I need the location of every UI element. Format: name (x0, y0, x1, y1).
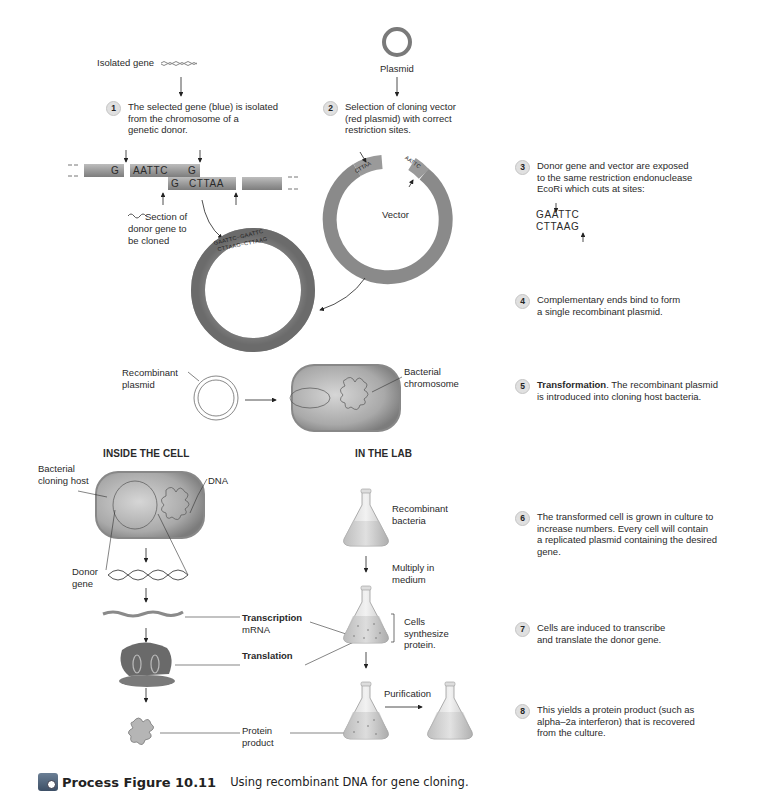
section-label: Section of (145, 211, 187, 223)
donor-gene-label: Donor gene (72, 566, 98, 589)
seq-mid-bottom: CTTAA (189, 178, 224, 190)
bacterial-chromosome-label: Bacterial chromosome (404, 366, 459, 389)
step-8: 8 This yields a protein product (such as… (515, 704, 695, 739)
step-6: 6 The transformed cell is grown in cultu… (515, 511, 717, 557)
cells-synthesize-label: Cells synthesize protein. (404, 616, 449, 651)
step-number: 8 (515, 704, 530, 719)
step-number: 5 (515, 379, 530, 394)
plasmid-icon (384, 29, 410, 55)
host-bacterium (292, 365, 400, 431)
vector-label: Vector (382, 209, 409, 221)
step-5: 5 Transformation. The recombinant plasmi… (515, 379, 718, 402)
purification-label: Purification (384, 688, 431, 700)
in-lab-header: IN THE LAB (355, 448, 412, 459)
isolated-gene-label: Isolated gene (97, 57, 154, 69)
donor-dna-strand (68, 150, 298, 205)
protein-product-icon (128, 718, 153, 745)
step-number: 7 (515, 622, 530, 637)
inside-cell-header: INSIDE THE CELL (103, 448, 190, 459)
recombinant-bacteria-label: Recombinant bacteria (392, 503, 448, 526)
dna-label: DNA (208, 475, 228, 487)
protein-product-label: Protein product (242, 725, 274, 748)
translation-label: Translation (242, 650, 293, 662)
seq-mid-top-end: G (188, 165, 196, 177)
flask-purified (428, 682, 473, 739)
plasmid-label: Plasmid (380, 63, 414, 75)
figure-caption: Process Figure 10.11 Using recombinant D… (38, 773, 469, 791)
seq-mid-bottom-start: G (171, 178, 179, 190)
section-squiggle-icon (128, 214, 146, 218)
step-number: 3 (515, 160, 530, 175)
step-number: 6 (515, 511, 530, 526)
flask-culture (344, 682, 389, 739)
multiply-label: Multiply in medium (392, 562, 434, 585)
transcription-label: Transcription mRNA (242, 612, 302, 635)
donor-gene-helix (108, 570, 188, 580)
flask-recombinant-bacteria (344, 489, 389, 546)
step-number: 1 (106, 101, 121, 116)
ecori-site: GAATTC CTTAAG (536, 209, 579, 232)
step-3: 3 Donor gene and vector are exposed to t… (515, 160, 692, 195)
figure-label: Process Figure 10.11 (62, 775, 216, 790)
ribosome-icon (119, 642, 175, 687)
figure-title: Using recombinant DNA for gene cloning. (230, 775, 468, 789)
process-figure-icon[interactable] (38, 773, 58, 791)
seq-left-top: G (111, 165, 119, 177)
vector-ring (330, 170, 446, 277)
mrna-strand (103, 612, 183, 616)
step-number: 4 (515, 294, 530, 309)
flask-cells-synthesize (344, 586, 389, 643)
step-number: 2 (323, 101, 338, 116)
step-4: 4 Complementary ends bind to form a sing… (515, 294, 680, 317)
seq-mid-top: AATTC (133, 165, 168, 177)
recombinant-plasmid-icon (194, 376, 238, 420)
step-2: 2 Selection of cloning vector (red plasm… (323, 101, 456, 136)
step-7: 7 Cells are induced to transcribe and tr… (515, 622, 665, 645)
recombinant-plasmid-label: Recombinant plasmid (122, 367, 178, 390)
step-1: 1 The selected gene (blue) is isolated f… (106, 101, 278, 136)
cloning-host-label: Bacterial cloning host (38, 463, 89, 486)
